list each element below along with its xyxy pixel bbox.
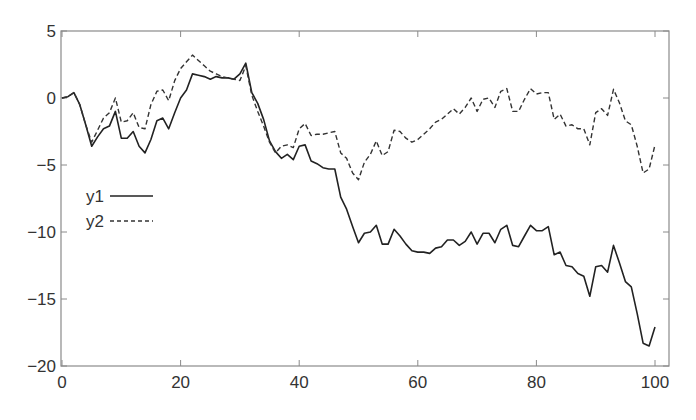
x-tick-label: 80 xyxy=(527,373,546,392)
chart-title-clipped xyxy=(130,0,590,3)
legend: y1y2 xyxy=(86,187,153,231)
y-tick-label: −20 xyxy=(27,357,56,376)
y-tick-label: 0 xyxy=(47,89,56,108)
y-tick-label: −5 xyxy=(37,156,56,175)
legend-label-y2: y2 xyxy=(86,212,104,231)
line-chart: 020406080100 50−5−10−15−20 y1y2 xyxy=(0,0,696,420)
y-tick-label: 5 xyxy=(47,22,56,41)
y-axis-ticks: 50−5−10−15−20 xyxy=(27,22,669,376)
legend-label-y1: y1 xyxy=(86,187,104,206)
series-layer xyxy=(62,55,655,346)
y-tick-label: −10 xyxy=(27,223,56,242)
y-tick-label: −15 xyxy=(27,290,56,309)
x-axis-ticks: 020406080100 xyxy=(57,31,669,392)
plot-area-frame xyxy=(61,31,669,366)
x-tick-label: 0 xyxy=(57,373,66,392)
x-tick-label: 40 xyxy=(290,373,309,392)
x-tick-label: 100 xyxy=(641,373,669,392)
chart-canvas: 020406080100 50−5−10−15−20 y1y2 xyxy=(0,0,696,420)
x-tick-label: 60 xyxy=(408,373,427,392)
x-tick-label: 20 xyxy=(171,373,190,392)
series-line-y2 xyxy=(62,55,655,180)
